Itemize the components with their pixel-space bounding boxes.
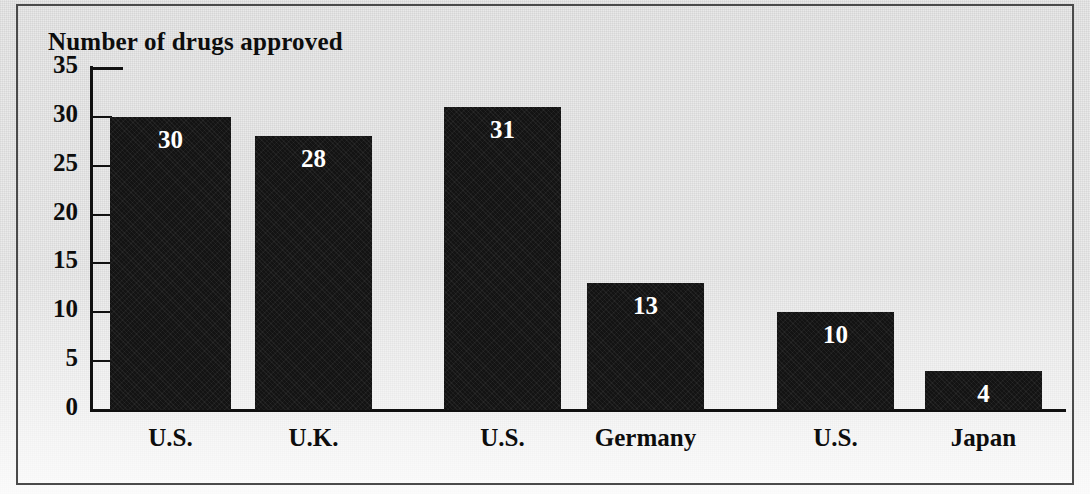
y-axis-tick [90,214,112,216]
x-axis-category-label: Germany [562,424,729,452]
y-axis-tick-label: 15 [22,246,78,274]
y-axis-tick-label: 25 [22,149,78,177]
bar-value-label: 10 [777,321,894,349]
bar [110,117,231,410]
x-axis-category-label: U.S. [419,424,586,452]
bar-value-label: 28 [255,145,372,173]
y-axis-tick [90,116,112,118]
y-axis-tick [90,262,112,264]
y-axis-tick-label: 0 [22,393,78,421]
x-axis-category-label: U.S. [752,424,919,452]
bar [444,107,561,410]
bar [255,136,372,410]
y-axis-tick [90,409,112,411]
x-axis-category-label: U.K. [230,424,397,452]
y-axis-tick-label: 20 [22,198,78,226]
y-axis-tick [90,311,112,313]
bar-value-label: 13 [587,292,704,320]
y-axis-tick-label: 30 [22,100,78,128]
bar-value-label: 31 [444,116,561,144]
x-axis-line [90,409,1066,412]
y-axis-tick [90,67,123,70]
bar-value-label: 4 [925,380,1042,408]
plot-area: 05101520253035 30283113104 U.S.U.K.U.S.G… [0,0,1090,494]
chart-figure: Number of drugs approved 05101520253035 … [0,0,1090,494]
y-axis-tick-label: 35 [22,51,78,79]
x-axis-category-label: Japan [900,424,1067,452]
y-axis-tick-label: 5 [22,344,78,372]
y-axis-tick [90,360,112,362]
y-axis-tick [90,165,112,167]
bar-value-label: 30 [110,126,231,154]
y-axis-tick-label: 10 [22,295,78,323]
